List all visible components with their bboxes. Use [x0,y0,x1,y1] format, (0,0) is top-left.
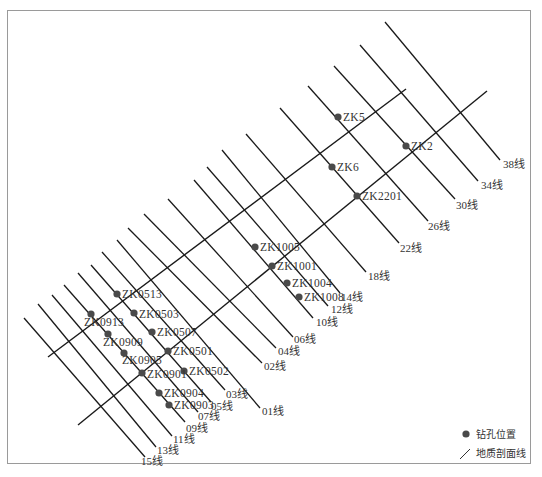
borehole[interactable]: ZK1001 [268,260,317,272]
section-line-label: 14线 [341,290,363,303]
legend: 钻孔位置 地质剖面线 [460,428,526,459]
borehole-dot-icon[interactable] [283,279,290,286]
borehole-label: ZK1004 [292,277,332,289]
borehole-dot-icon[interactable] [295,293,302,300]
borehole-dot-icon[interactable] [164,347,171,354]
borehole-label: ZK2 [411,140,433,152]
borehole-label: ZK1005 [260,241,300,253]
section-line-label: 26线 [428,219,450,232]
borehole[interactable]: ZK6 [328,161,359,173]
section-line-label: 30线 [456,198,478,211]
borehole-dot-icon[interactable] [130,309,137,316]
borehole-label: ZK1008 [304,291,344,303]
section-line-label: 22线 [400,241,422,254]
borehole-label: ZK0503 [139,308,179,320]
borehole-dot-icon[interactable] [334,113,341,120]
borehole-dot-icon[interactable] [155,389,162,396]
borehole[interactable]: ZK0905 [120,349,162,366]
borehole[interactable]: ZK0507 [148,326,197,338]
section-line-label: 18线 [368,269,390,282]
borehole-dot-icon[interactable] [268,262,275,269]
borehole-label: ZK0502 [189,365,229,377]
borehole-label: ZK6 [337,161,359,173]
section-line-label: 15线 [141,454,163,467]
section-line-legend-icon [460,449,470,459]
borehole-label: ZK0901 [147,368,187,380]
borehole-label: ZK0507 [157,326,197,338]
borehole[interactable]: ZK0913 [84,310,124,328]
section-labels-group: 38线34线30线26线22线18线14线12线10线06线04线02线01线0… [141,157,525,467]
borehole[interactable]: ZK0909 [103,330,143,348]
section-line-label: 06线 [294,332,316,345]
borehole[interactable]: ZK0501 [164,345,213,357]
borehole-label: ZK5 [343,111,365,123]
section-line-label: 04线 [278,344,300,357]
section-line-label: 38线 [503,157,525,170]
section-line-label: 03线 [226,387,248,400]
section-line-label: 12线 [331,302,353,315]
borehole-dot-icon[interactable] [138,369,145,376]
section-line-label: 02线 [264,359,286,372]
borehole[interactable]: ZK1005 [251,241,300,253]
borehole-label: ZK1001 [277,260,317,272]
borehole-dot-icon[interactable] [113,290,120,297]
borehole-label: ZK0905 [122,354,162,366]
borehole[interactable]: ZK2 [402,140,433,152]
borehole-label: ZK0904 [164,387,204,399]
borehole-dot-icon[interactable] [328,163,335,170]
section-line [117,240,260,408]
borehole-dot-icon[interactable] [353,192,360,199]
section-lines-group [24,22,500,457]
section-line-label: 01线 [262,404,284,417]
borehole-dot-icon[interactable] [165,401,172,408]
borehole-dot-icon[interactable] [148,328,155,335]
borehole-legend-icon [462,430,469,437]
section-line-label: 07线 [198,409,220,422]
borehole[interactable]: ZK1004 [283,277,332,289]
section-line-label: 34线 [481,178,503,191]
borehole-label: ZK0913 [84,316,124,328]
section-line [280,108,399,243]
borehole-dot-icon[interactable] [402,142,409,149]
legend-borehole-label: 钻孔位置 [476,428,516,440]
section-line-label: 10线 [316,315,338,328]
legend-section-line-label: 地质剖面线 [476,447,526,459]
borehole[interactable]: ZK1008 [295,291,344,303]
borehole-label: ZK0909 [103,336,143,348]
borehole-label: ZK0513 [122,288,162,300]
geological-section-map: ZK5ZK2ZK6ZK2201ZK1005ZK1001ZK1004ZK1008Z… [0,0,542,477]
borehole-dot-icon[interactable] [251,243,258,250]
borehole-label: ZK2201 [362,190,402,202]
borehole-label: ZK0501 [173,345,213,357]
